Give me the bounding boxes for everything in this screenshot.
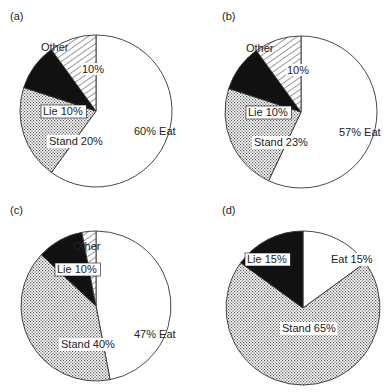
- label-other-caption: Other: [41, 41, 69, 53]
- label-stand: Stand 65%: [282, 322, 336, 334]
- label-eat: Eat 15%: [331, 253, 373, 265]
- slice-eat: [96, 231, 171, 380]
- label-eat: 60% Eat: [134, 125, 176, 137]
- label-lie: Lie 10%: [57, 263, 97, 275]
- pie-b: 57% EatStand 23%Lie 10%10%Other(b): [222, 10, 381, 188]
- pie-d: Eat 15%Stand 65%Lie 15%(d): [222, 204, 380, 385]
- label-stand: Stand 23%: [254, 136, 308, 148]
- label-stand: Stand 40%: [61, 338, 115, 350]
- panel-label: (d): [222, 204, 235, 216]
- label-lie: Lie 15%: [247, 253, 287, 265]
- label-eat: 47% Eat: [134, 328, 176, 340]
- label-other-caption: Other: [73, 240, 101, 252]
- pie-chart-figure: 60% EatStand 20%Lie 10%10%Other(a)57% Ea…: [0, 0, 391, 392]
- label-other: 10%: [287, 64, 309, 76]
- label-stand: Stand 20%: [49, 135, 103, 147]
- panel-label: (c): [10, 204, 23, 216]
- panel-label: (b): [222, 10, 235, 22]
- panel-label: (a): [10, 10, 23, 22]
- label-lie: Lie 10%: [248, 106, 288, 118]
- label-other: 10%: [82, 63, 104, 75]
- pie-c: 47% EatStand 40%Lie 10%Other(c): [10, 204, 176, 381]
- label-eat: 57% Eat: [339, 126, 381, 138]
- label-lie: Lie 10%: [43, 105, 83, 117]
- label-other-caption: Other: [246, 42, 274, 54]
- pie-a: 60% EatStand 20%Lie 10%10%Other(a): [10, 10, 176, 187]
